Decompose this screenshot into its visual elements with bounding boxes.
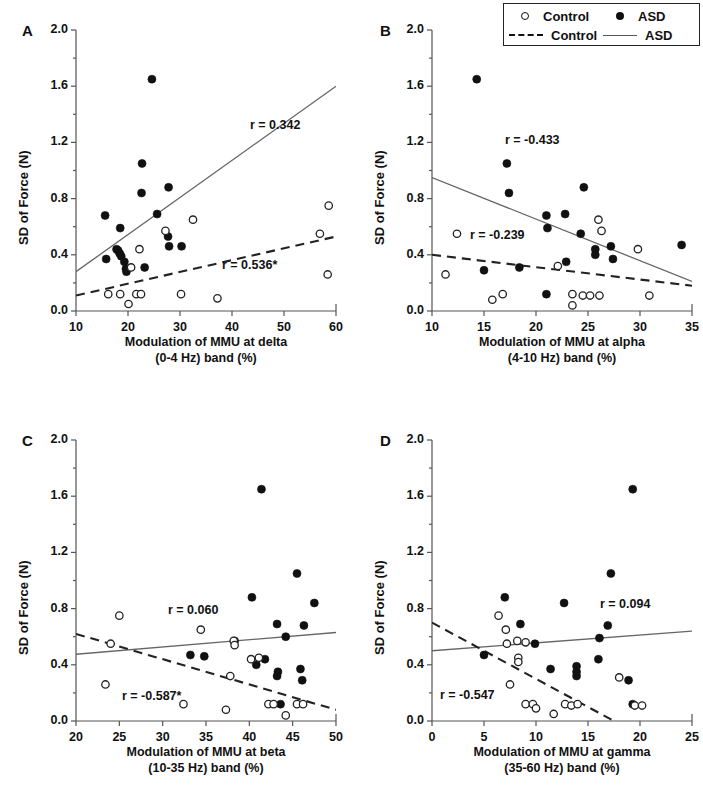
- solid-line-icon: [603, 35, 637, 36]
- y-tick-label: 0.4: [18, 247, 68, 261]
- legend-item-3: ASD: [603, 26, 672, 44]
- plot-area-d: [0, 0, 703, 802]
- y-tick-label: 0.8: [18, 601, 68, 615]
- data-point-asd: [604, 621, 612, 629]
- data-point-asd: [609, 255, 617, 263]
- y-tick-label: 0.0: [18, 303, 68, 317]
- y-tick-label: 2.0: [18, 22, 68, 36]
- y-tick-label: 0.4: [374, 657, 424, 671]
- data-point-control: [442, 271, 449, 278]
- data-point-control: [214, 295, 221, 302]
- data-point-control: [265, 700, 272, 707]
- x-tick-label: 25: [563, 320, 613, 334]
- data-point-control: [596, 292, 603, 299]
- x-axis-label-line2: (4-10 Hz) band (%): [422, 351, 702, 367]
- data-point-control: [514, 637, 521, 644]
- data-point-asd: [577, 230, 585, 238]
- data-point-asd: [122, 265, 130, 273]
- data-point-control: [299, 700, 306, 707]
- x-axis-label-line2: (10-35 Hz) band (%): [66, 761, 346, 777]
- x-axis-label-a: Modulation of MMU at delta(0-4 Hz) band …: [66, 335, 346, 366]
- data-point-control: [515, 658, 522, 665]
- correlation-label-d-control: r = -0.547: [440, 688, 495, 702]
- x-axis-label-line2: (35-60 Hz) band (%): [422, 761, 702, 777]
- data-point-control: [137, 290, 144, 297]
- data-point-asd: [282, 633, 290, 641]
- correlation-label-c-asd: r = 0.060: [168, 603, 218, 617]
- data-point-control: [247, 655, 254, 662]
- data-point-asd: [480, 266, 488, 274]
- data-point-control: [282, 712, 289, 719]
- data-point-asd: [186, 651, 194, 659]
- data-point-control: [595, 216, 602, 223]
- data-point-asd: [625, 676, 633, 684]
- data-point-asd: [116, 249, 124, 257]
- data-point-asd: [591, 245, 599, 253]
- data-point-asd: [165, 242, 173, 250]
- data-point-asd: [473, 75, 481, 83]
- data-point-asd: [531, 640, 539, 648]
- data-point-control: [631, 702, 638, 709]
- data-point-control: [515, 654, 522, 661]
- legend-label: Control: [543, 9, 589, 24]
- plot-area-a: [0, 0, 703, 802]
- x-tick-label: 50: [259, 320, 309, 334]
- data-point-asd: [573, 672, 581, 680]
- legend-item-0: Control: [521, 7, 589, 25]
- data-point-control: [255, 654, 262, 661]
- fit-line-control: [76, 634, 336, 710]
- data-point-asd: [547, 665, 555, 673]
- correlation-label-b-asd: r = -0.433: [505, 133, 560, 147]
- data-point-control: [561, 700, 568, 707]
- data-point-control: [532, 705, 539, 712]
- data-point-asd: [102, 255, 110, 263]
- data-point-asd: [122, 268, 130, 276]
- data-point-control: [598, 227, 605, 234]
- x-axis-label-line2: (0-4 Hz) band (%): [66, 351, 346, 367]
- x-tick-label: 30: [615, 320, 665, 334]
- y-tick-label: 2.0: [18, 432, 68, 446]
- correlation-label-a-control: r = 0.536*: [222, 258, 277, 272]
- data-point-control: [102, 681, 109, 688]
- data-point-control: [189, 216, 196, 223]
- data-point-asd: [561, 210, 569, 218]
- data-point-control: [127, 264, 134, 271]
- data-point-control: [638, 702, 645, 709]
- x-tick-label: 10: [407, 320, 457, 334]
- legend-label: ASD: [638, 9, 665, 24]
- data-point-asd: [629, 700, 637, 708]
- data-point-control: [554, 262, 561, 269]
- data-point-asd: [542, 211, 550, 219]
- x-axis-label-d: Modulation of MMU at gamma(35-60 Hz) ban…: [422, 745, 702, 776]
- data-point-asd: [117, 252, 125, 260]
- fit-line-asd: [432, 631, 692, 651]
- y-tick-label: 1.6: [18, 78, 68, 92]
- x-tick-label: 10: [51, 320, 101, 334]
- data-point-control: [579, 292, 586, 299]
- data-point-control: [125, 300, 132, 307]
- data-point-asd: [310, 599, 318, 607]
- x-tick-label: 5: [459, 730, 509, 744]
- data-point-asd: [573, 662, 581, 670]
- y-tick-label: 0.0: [374, 713, 424, 727]
- y-tick-label: 1.2: [374, 544, 424, 558]
- data-point-control: [133, 290, 140, 297]
- data-point-asd: [138, 189, 146, 197]
- x-tick-label: 15: [563, 730, 613, 744]
- filled-circle-icon: [616, 12, 624, 20]
- data-point-asd: [101, 211, 109, 219]
- data-point-asd: [562, 258, 570, 266]
- data-point-asd: [580, 183, 588, 191]
- data-point-control: [586, 292, 593, 299]
- data-point-asd: [165, 183, 173, 191]
- data-point-asd: [248, 593, 256, 601]
- data-point-control: [230, 637, 237, 644]
- data-point-asd: [595, 634, 603, 642]
- data-point-asd: [113, 245, 121, 253]
- data-point-asd: [293, 569, 301, 577]
- x-tick-label: 20: [615, 730, 665, 744]
- y-tick-label: 1.6: [18, 488, 68, 502]
- x-tick-label: 20: [103, 320, 153, 334]
- x-tick-label: 10: [511, 730, 561, 744]
- data-point-asd: [300, 621, 308, 629]
